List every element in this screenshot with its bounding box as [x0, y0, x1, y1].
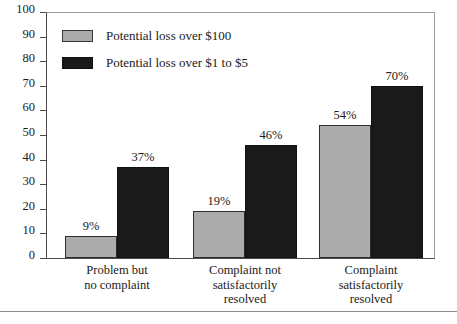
legend-swatch-icon: [62, 30, 93, 42]
legend-item-label: Potential loss over $1 to $5: [106, 56, 248, 70]
bar[interactable]: [117, 167, 169, 258]
y-axis-tick-mark: [40, 135, 46, 136]
y-axis-tick-mark: [40, 37, 46, 38]
legend-item-label: Potential loss over $100: [106, 29, 231, 43]
y-axis-tick-label: 70: [23, 77, 36, 89]
y-axis-tick-label: 90: [23, 28, 36, 40]
bottom-divider-rule: [0, 311, 457, 312]
y-axis-tick-mark: [40, 233, 46, 234]
bar-chart-figure: 0102030405060708090100 9%37%19%46%54%70%…: [0, 0, 457, 324]
y-axis-tick-label: 0: [29, 249, 35, 261]
bar[interactable]: [371, 86, 423, 258]
x-axis-category-label: Complaint notsatisfactorilyresolved: [173, 263, 317, 307]
bar-column: 70%: [371, 12, 423, 258]
bar-value-label: 46%: [245, 129, 297, 142]
bar[interactable]: [319, 125, 371, 258]
x-axis-category-label-line: resolved: [173, 292, 317, 307]
x-axis-category-label-line: Complaint: [299, 263, 443, 278]
y-axis-tick-mark: [40, 86, 46, 87]
x-axis-category-label-line: satisfactorily: [173, 278, 317, 293]
y-axis-tick-label: 10: [23, 224, 36, 236]
x-axis-category-label-line: satisfactorily: [299, 278, 443, 293]
y-axis-tick-mark: [40, 160, 46, 161]
chart-legend: Potential loss over $100Potential loss o…: [62, 25, 322, 79]
y-axis-tick-mark: [40, 12, 46, 13]
y-axis-tick-label: 50: [23, 126, 36, 138]
y-axis-tick-mark: [40, 61, 46, 62]
legend-swatch-icon: [62, 57, 93, 69]
y-axis: 0102030405060708090100: [0, 12, 46, 260]
x-axis-category-label-line: no complaint: [45, 278, 189, 293]
y-axis-tick-mark: [40, 258, 46, 259]
bar-value-label: 37%: [117, 151, 169, 164]
y-axis-tick-mark: [40, 209, 46, 210]
bar[interactable]: [65, 236, 117, 258]
bar-value-label: 70%: [371, 70, 423, 83]
bar-value-label: 9%: [65, 220, 117, 233]
x-axis-category-label: Complaintsatisfactorilyresolved: [299, 263, 443, 307]
y-axis-tick-label: 30: [23, 175, 36, 187]
y-axis-tick-mark: [40, 110, 46, 111]
y-axis-tick-label: 80: [23, 52, 36, 64]
x-axis-category-labels: Problem butno complaintComplaint notsati…: [47, 263, 434, 309]
x-axis-category-label: Problem butno complaint: [45, 263, 189, 292]
x-axis-category-label-line: resolved: [299, 292, 443, 307]
bar-value-label: 19%: [193, 195, 245, 208]
bar-value-label: 54%: [319, 109, 371, 122]
bar[interactable]: [245, 145, 297, 258]
x-axis-category-label-line: Problem but: [45, 263, 189, 278]
legend-item[interactable]: Potential loss over $1 to $5: [62, 52, 322, 73]
x-axis-category-label-line: Complaint not: [173, 263, 317, 278]
legend-item[interactable]: Potential loss over $100: [62, 25, 322, 46]
y-axis-tick-label: 40: [23, 151, 36, 163]
y-axis-tick-label: 20: [23, 200, 36, 212]
y-axis-tick-label: 60: [23, 101, 36, 113]
bar-column: 54%: [319, 12, 371, 258]
bar[interactable]: [193, 211, 245, 258]
y-axis-tick-mark: [40, 184, 46, 185]
bar-group: 54%70%: [319, 12, 423, 258]
y-axis-tick-label: 100: [16, 3, 35, 15]
